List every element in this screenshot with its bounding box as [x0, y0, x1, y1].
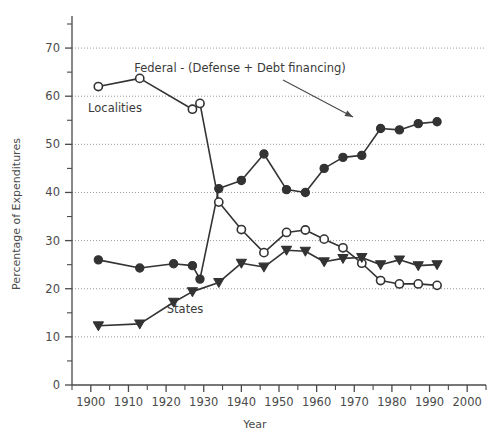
data-point [376, 261, 386, 270]
data-point [395, 126, 403, 134]
data-point [188, 262, 196, 270]
data-point [319, 258, 329, 267]
series-line [98, 250, 437, 326]
data-point [188, 105, 196, 113]
data-point [136, 264, 144, 272]
federal-annotation: Federal - (Defense + Debt financing) [134, 61, 346, 75]
y-tick-label-50: 50 [45, 137, 60, 151]
states-label: States [167, 302, 203, 316]
data-point [377, 276, 385, 284]
expenditures-line-chart: 0102030405060701900191019201930194019501… [0, 0, 500, 436]
data-point [136, 74, 144, 82]
x-tick-label-1920: 1920 [151, 395, 180, 409]
data-point [170, 260, 178, 268]
data-point [215, 198, 223, 206]
axis-tick-labels: 0102030405060701900191019201930194019501… [45, 41, 481, 409]
x-tick-label-1900: 1900 [76, 395, 105, 409]
x-tick-label-1970: 1970 [340, 395, 369, 409]
data-point [301, 188, 309, 196]
axis-ticks [65, 24, 486, 392]
y-tick-label-60: 60 [45, 89, 60, 103]
data-point [377, 124, 385, 132]
y-tick-label-20: 20 [45, 282, 60, 296]
data-point [282, 228, 290, 236]
y-tick-label-70: 70 [45, 41, 60, 55]
data-point [395, 280, 403, 288]
annotation-arrow-line [283, 80, 353, 117]
data-point [320, 235, 328, 243]
data-point [187, 288, 197, 297]
data-point [301, 226, 309, 234]
data-point [94, 256, 102, 264]
x-tick-label-1910: 1910 [114, 395, 143, 409]
x-tick-label-1930: 1930 [189, 395, 218, 409]
x-tick-label-1990: 1990 [415, 395, 444, 409]
x-axis-label: Year [242, 418, 267, 431]
chart-container: 0102030405060701900191019201930194019501… [0, 0, 500, 436]
data-point [358, 151, 366, 159]
data-point [94, 82, 102, 90]
data-point [260, 249, 268, 257]
data-point [339, 153, 347, 161]
gridlines [72, 48, 486, 337]
data-point [320, 164, 328, 172]
data-series [93, 74, 442, 330]
x-tick-label-1950: 1950 [264, 395, 293, 409]
data-point [237, 225, 245, 233]
data-point [196, 275, 204, 283]
x-tick-label-2000: 2000 [453, 395, 482, 409]
series-localities [94, 74, 441, 289]
y-tick-label-0: 0 [53, 378, 60, 392]
data-point [414, 280, 422, 288]
x-tick-label-1960: 1960 [302, 395, 331, 409]
annotation-arrow-head [345, 111, 353, 117]
y-axis-label: Percentage of Expenditures [10, 138, 23, 290]
data-point [237, 176, 245, 184]
localities-label: Localities [88, 101, 142, 115]
data-point [260, 150, 268, 158]
data-point [259, 263, 269, 272]
y-tick-label-40: 40 [45, 185, 60, 199]
data-point [433, 281, 441, 289]
data-point [433, 118, 441, 126]
y-tick-label-30: 30 [45, 234, 60, 248]
x-tick-label-1980: 1980 [377, 395, 406, 409]
data-point [196, 99, 204, 107]
y-tick-label-10: 10 [45, 330, 60, 344]
series-federal [94, 118, 441, 284]
data-point [414, 120, 422, 128]
x-tick-label-1940: 1940 [227, 395, 256, 409]
data-point [339, 244, 347, 252]
data-point [282, 185, 290, 193]
